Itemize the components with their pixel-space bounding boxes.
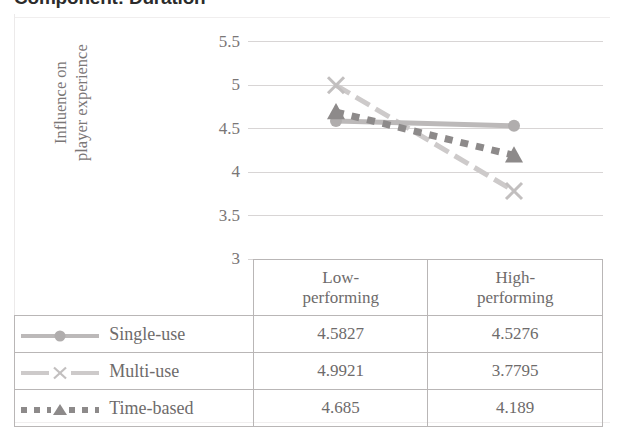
y-tick-4_5: 4.5 xyxy=(180,120,240,137)
cell-time-based-high: 4.189 xyxy=(428,390,603,427)
table-header-high-line1: High- xyxy=(428,268,602,288)
y-tick-5: 5 xyxy=(180,76,240,93)
marker-single-use-high xyxy=(508,120,520,132)
table-header-high-performing: High- performing xyxy=(428,260,603,316)
legend-key-time-based-icon xyxy=(21,402,99,416)
legend-label-single-use: Single-use xyxy=(109,324,185,344)
table-header-row: Low- performing High- performing xyxy=(15,260,603,316)
frame-top-rule xyxy=(14,17,610,18)
cell-multi-use-high: 3.7795 xyxy=(428,353,603,390)
table-row: Multi-use 4.9921 3.7795 xyxy=(15,353,603,390)
legend-key-single-use-icon xyxy=(21,328,99,342)
series-multi-use xyxy=(328,77,522,199)
table-row: Single-use 4.5827 4.5276 xyxy=(15,316,603,353)
table-corner-cell xyxy=(15,260,254,316)
series-single-use-line xyxy=(336,121,514,126)
y-axis-title-line1: Influence on xyxy=(51,5,72,201)
cell-single-use-high: 4.5276 xyxy=(428,316,603,353)
y-tick-3_5: 3.5 xyxy=(180,207,240,224)
legend-cell-time-based: Time-based xyxy=(15,390,254,427)
marker-multi-use-low xyxy=(328,77,344,93)
legend-key-multi-use-icon xyxy=(21,365,99,379)
cell-time-based-low: 4.685 xyxy=(253,390,428,427)
y-axis-title-line2: player experience xyxy=(72,5,93,201)
table-header-low-line2: performing xyxy=(254,288,428,308)
series-plot xyxy=(248,41,603,259)
table-row: Time-based 4.685 4.189 xyxy=(15,390,603,427)
cell-multi-use-low: 4.9921 xyxy=(253,353,428,390)
legend-label-time-based: Time-based xyxy=(109,398,193,418)
series-multi-use-line xyxy=(336,85,514,191)
legend-label-multi-use: Multi-use xyxy=(109,361,179,381)
y-tick-4: 4 xyxy=(180,163,240,180)
y-axis-title: Influence on player experience xyxy=(51,5,92,201)
table-header-high-line2: performing xyxy=(428,288,602,308)
table-header-low-performing: Low- performing xyxy=(253,260,428,316)
y-tick-5_5: 5.5 xyxy=(180,33,240,50)
legend-cell-single-use: Single-use xyxy=(15,316,254,353)
cell-single-use-low: 4.5827 xyxy=(253,316,428,353)
chart-title: Component: Duration xyxy=(14,0,205,9)
legend-cell-multi-use: Multi-use xyxy=(15,353,254,390)
series-time-based-line xyxy=(336,112,514,155)
plot-area xyxy=(248,41,603,259)
marker-multi-use-high xyxy=(506,183,522,199)
data-table: Low- performing High- performing Single-… xyxy=(14,259,603,427)
series-time-based xyxy=(327,103,523,162)
table-header-low-line1: Low- xyxy=(254,268,428,288)
